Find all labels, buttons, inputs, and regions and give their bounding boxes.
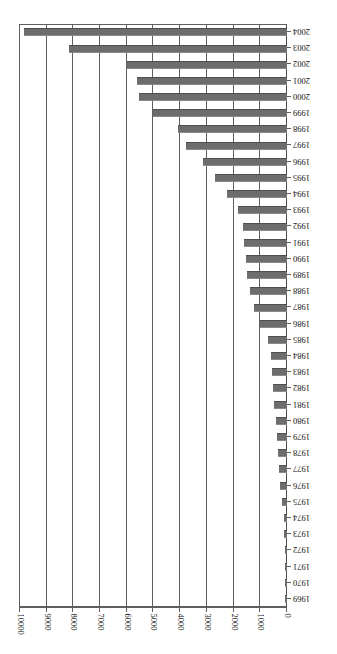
value-tick-label-5000: 5000 bbox=[150, 614, 159, 631]
category-tick-1986 bbox=[287, 323, 291, 324]
category-tick-1997 bbox=[287, 144, 291, 145]
category-label-2003: 2003 bbox=[293, 44, 310, 53]
bar-row bbox=[20, 251, 287, 267]
bar-row bbox=[20, 89, 287, 105]
value-tick-0 bbox=[286, 607, 287, 612]
category-label-1971: 1971 bbox=[293, 562, 310, 571]
bar-1980 bbox=[276, 417, 287, 425]
category-label-1998: 1998 bbox=[293, 125, 310, 134]
bar-1991 bbox=[244, 239, 287, 247]
category-label-1973: 1973 bbox=[293, 530, 310, 539]
category-tick-1990 bbox=[287, 258, 291, 259]
bar-1987 bbox=[254, 304, 287, 312]
bar-1982 bbox=[273, 384, 287, 392]
category-tick-1972 bbox=[287, 549, 291, 550]
bar-row bbox=[20, 445, 287, 461]
bar-row bbox=[20, 40, 287, 56]
category-label-1987: 1987 bbox=[293, 303, 310, 312]
bar-2004 bbox=[24, 28, 287, 36]
bar-chart-figure: 0100020003000400050006000700080009000100… bbox=[0, 0, 337, 654]
bar-row bbox=[20, 57, 287, 73]
category-label-1989: 1989 bbox=[293, 271, 310, 280]
bar-1985 bbox=[268, 336, 287, 344]
bar-1972 bbox=[285, 546, 287, 554]
bar-row bbox=[20, 494, 287, 510]
category-label-2001: 2001 bbox=[293, 76, 310, 85]
category-label-1992: 1992 bbox=[293, 222, 310, 231]
category-tick-1977 bbox=[287, 468, 291, 469]
bar-1983 bbox=[272, 368, 287, 376]
category-label-1972: 1972 bbox=[293, 546, 310, 555]
bar-2000 bbox=[139, 93, 287, 101]
bar-row bbox=[20, 542, 287, 558]
bar-row bbox=[20, 105, 287, 121]
category-label-1997: 1997 bbox=[293, 141, 310, 150]
bar-1974 bbox=[284, 514, 287, 522]
value-tick-label-2000: 2000 bbox=[230, 614, 239, 631]
category-tick-1970 bbox=[287, 582, 291, 583]
category-tick-1982 bbox=[287, 387, 291, 388]
value-tick-label-3000: 3000 bbox=[203, 614, 212, 631]
category-tick-1980 bbox=[287, 420, 291, 421]
bar-2001 bbox=[137, 77, 287, 85]
bar-1970 bbox=[286, 579, 288, 587]
bar-row bbox=[20, 24, 287, 40]
category-tick-1992 bbox=[287, 225, 291, 226]
bar-1996 bbox=[203, 158, 287, 166]
category-label-1978: 1978 bbox=[293, 449, 310, 458]
bar-row bbox=[20, 283, 287, 299]
value-tick-5000 bbox=[153, 607, 154, 612]
bar-1969 bbox=[286, 595, 288, 603]
category-tick-1984 bbox=[287, 355, 291, 356]
bar-row bbox=[20, 526, 287, 542]
category-label-1983: 1983 bbox=[293, 368, 310, 377]
bar-1988 bbox=[250, 287, 287, 295]
category-tick-1987 bbox=[287, 306, 291, 307]
category-label-1996: 1996 bbox=[293, 157, 310, 166]
value-tick-3000 bbox=[206, 607, 207, 612]
category-tick-1979 bbox=[287, 436, 291, 437]
bar-1978 bbox=[278, 449, 287, 457]
category-tick-1998 bbox=[287, 128, 291, 129]
bar-row bbox=[20, 364, 287, 380]
category-tick-1969 bbox=[287, 598, 291, 599]
value-tick-label-4000: 4000 bbox=[176, 614, 185, 631]
bar-1976 bbox=[280, 482, 287, 490]
bar-row bbox=[20, 478, 287, 494]
bar-1990 bbox=[246, 255, 287, 263]
category-label-2004: 2004 bbox=[293, 28, 310, 37]
category-tick-1995 bbox=[287, 177, 291, 178]
bar-1999 bbox=[154, 109, 288, 117]
bar-row bbox=[20, 170, 287, 186]
category-tick-1971 bbox=[287, 566, 291, 567]
bar-row bbox=[20, 121, 287, 137]
value-tick-label-8000: 8000 bbox=[69, 614, 78, 631]
category-tick-1999 bbox=[287, 112, 291, 113]
category-tick-1983 bbox=[287, 371, 291, 372]
bar-row bbox=[20, 510, 287, 526]
category-label-1994: 1994 bbox=[293, 190, 310, 199]
value-axis: 0100020003000400050006000700080009000100… bbox=[20, 607, 287, 654]
category-tick-1994 bbox=[287, 193, 291, 194]
bar-1995 bbox=[215, 174, 287, 182]
bar-row bbox=[20, 186, 287, 202]
category-label-2000: 2000 bbox=[293, 93, 310, 102]
value-tick-2000 bbox=[233, 607, 234, 612]
category-tick-1973 bbox=[287, 533, 291, 534]
value-tick-7000 bbox=[99, 607, 100, 612]
category-tick-1975 bbox=[287, 501, 291, 502]
bar-1975 bbox=[282, 498, 287, 506]
value-tick-label-1000: 1000 bbox=[256, 614, 265, 631]
category-tick-2004 bbox=[287, 31, 291, 32]
value-tick-label-9000: 9000 bbox=[43, 614, 52, 631]
bar-row bbox=[20, 397, 287, 413]
value-tick-1000 bbox=[259, 607, 260, 612]
category-tick-1978 bbox=[287, 452, 291, 453]
bar-1989 bbox=[247, 271, 287, 279]
category-tick-1976 bbox=[287, 485, 291, 486]
bar-row bbox=[20, 591, 287, 607]
value-tick-label-10000: 10000 bbox=[16, 614, 25, 635]
value-tick-4000 bbox=[179, 607, 180, 612]
category-tick-1985 bbox=[287, 339, 291, 340]
category-label-1977: 1977 bbox=[293, 465, 310, 474]
